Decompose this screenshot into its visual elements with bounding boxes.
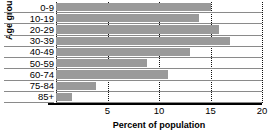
bar-row <box>56 24 262 35</box>
bar-row <box>56 81 262 92</box>
y-tick-label-30-39: 30-39 <box>2 35 54 46</box>
y-tick-label-75-84: 75-84 <box>2 80 54 91</box>
x-tick-label-10: 10 <box>148 105 170 116</box>
bar-chart: Age groups 0-910-1920-2930-3940-4950-596… <box>0 0 275 137</box>
bar-50-59 <box>56 59 147 67</box>
y-tick-label-20-29: 20-29 <box>2 24 54 35</box>
x-tick-label-5: 5 <box>97 105 119 116</box>
bar-0-9 <box>56 3 211 11</box>
bar-row <box>56 36 262 47</box>
bar-20-29 <box>56 25 219 33</box>
plot-area <box>56 2 262 103</box>
bar-30-39 <box>56 37 230 45</box>
y-tick-label-50-59: 50-59 <box>2 58 54 69</box>
y-tick-label-85+: 85+ <box>2 91 54 102</box>
x-axis-title: Percent of population <box>56 120 262 130</box>
y-tick-label-60-74: 60-74 <box>2 69 54 80</box>
y-axis-tick-labels: 0-910-1920-2930-3940-4950-5960-7475-8485… <box>0 2 54 103</box>
y-label-rule <box>4 102 54 103</box>
bar-row <box>56 58 262 69</box>
x-tick-label-20: 20 <box>251 105 273 116</box>
y-tick-label-10-19: 10-19 <box>2 13 54 24</box>
bar-row <box>56 69 262 80</box>
bar-60-74 <box>56 70 168 78</box>
gridline-20 <box>262 2 263 103</box>
x-tick-label-15: 15 <box>200 105 222 116</box>
y-tick-label-0-9: 0-9 <box>2 2 54 13</box>
bar-row <box>56 13 262 24</box>
bar-40-49 <box>56 48 190 56</box>
bar-row <box>56 92 262 103</box>
bar-10-19 <box>56 14 199 22</box>
bar-row <box>56 47 262 58</box>
bar-85+ <box>56 93 72 101</box>
bar-75-84 <box>56 82 96 90</box>
bar-row <box>56 2 262 13</box>
y-tick-label-40-49: 40-49 <box>2 46 54 57</box>
